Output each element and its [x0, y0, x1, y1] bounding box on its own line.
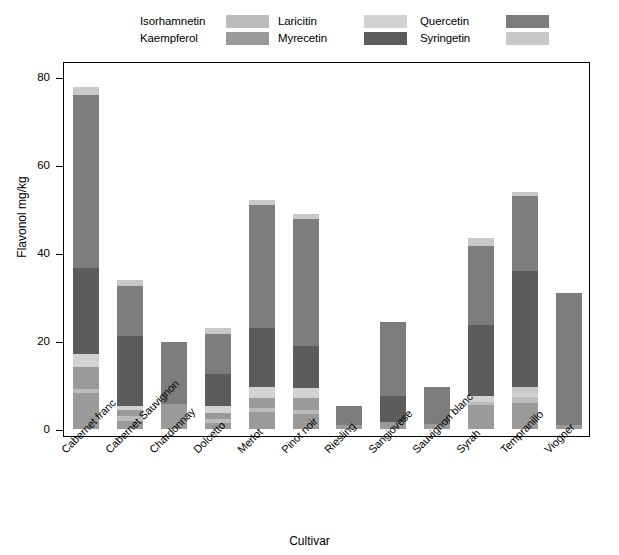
bar-segment-laricitin: [205, 406, 231, 413]
bar-pinot-noir[interactable]: [293, 214, 319, 429]
legend-swatch: [506, 15, 549, 28]
bar-segment-quercetin: [556, 293, 582, 425]
y-tick-mark: [56, 430, 63, 431]
legend-swatch: [506, 32, 549, 45]
bar-segment-myrecetin: [512, 271, 538, 387]
bar-merlot[interactable]: [249, 200, 275, 429]
legend-item-myrecetin[interactable]: Myrecetin: [278, 31, 407, 46]
bar-segment-kaempferol2: [73, 367, 99, 389]
legend-swatch: [364, 15, 407, 28]
bar-segment-laricitin: [512, 393, 538, 397]
bar-segment-syringetin: [205, 328, 231, 334]
x-axis-label: Cultivar: [0, 534, 619, 548]
bar-segment-laricitin: [73, 354, 99, 366]
y-tick-label: 0: [6, 423, 50, 435]
y-tick-label: 20: [6, 335, 50, 347]
bar-segment-syringetin: [293, 214, 319, 219]
legend-column-1: LaricitinMyrecetin: [278, 14, 407, 48]
y-tick-mark: [56, 78, 63, 79]
legend-item-laricitin[interactable]: Laricitin: [278, 14, 407, 29]
bar-segment-laricitin: [249, 387, 275, 398]
bar-segment-kaempferol2: [293, 398, 319, 409]
legend-label: Isorhamnetin: [140, 15, 226, 28]
bar-segment-syringetin: [468, 238, 494, 246]
chart-legend: IsorhamnetinKaempferolLaricitinMyrecetin…: [0, 0, 619, 56]
bar-dolcetto[interactable]: [205, 328, 231, 429]
y-axis-spine: [63, 78, 64, 430]
bar-tempranillo[interactable]: [512, 192, 538, 429]
bar-segment-kaempferol: [249, 412, 275, 429]
bar-segment-quercetin: [73, 95, 99, 269]
plot-area: [63, 62, 590, 437]
legend-label: Quercetin: [420, 15, 506, 28]
legend-swatch: [226, 32, 269, 45]
legend-label: Kaempferol: [140, 32, 226, 45]
bar-segment-syringetin2: [512, 192, 538, 196]
bar-segment-myrecetin: [73, 268, 99, 354]
bar-cabernet-sauvignon[interactable]: [117, 280, 143, 429]
bar-segment-quercetin: [249, 205, 275, 328]
y-tick-label: 80: [6, 71, 50, 83]
y-axis-label: Flavonol mg/kg: [15, 137, 29, 297]
bar-segment-isorhamnetin: [73, 389, 99, 393]
legend-label: Laricitin: [278, 15, 364, 28]
y-tick-mark: [56, 166, 63, 167]
bar-segment-kaempferol: [468, 405, 494, 429]
bar-segment-isorhamnetin: [293, 410, 319, 414]
bar-segment-kaempferol2: [249, 398, 275, 408]
bar-segment-quercetin: [205, 334, 231, 375]
bar-segment-isorhamnetin: [468, 402, 494, 406]
legend-item-isorhamnetin[interactable]: Isorhamnetin: [140, 14, 269, 29]
bar-segment-quercetin: [293, 219, 319, 346]
bar-segment-syringetin: [249, 200, 275, 204]
legend-item-quercetin[interactable]: Quercetin: [420, 14, 549, 29]
bar-segment-syringetin: [512, 387, 538, 393]
legend-item-syringetin[interactable]: Syringetin: [420, 31, 549, 46]
bar-segment-laricitin: [293, 388, 319, 398]
bar-segment-myrecetin: [205, 374, 231, 406]
y-tick-mark: [56, 342, 63, 343]
bar-cabernet-franc[interactable]: [73, 87, 99, 429]
bar-segment-myrecetin: [117, 336, 143, 406]
bar-segment-quercetin: [468, 246, 494, 325]
bar-segment-isorhamnetin: [512, 397, 538, 402]
legend-label: Syringetin: [420, 32, 506, 45]
legend-column-2: QuercetinSyringetin: [420, 14, 549, 48]
bar-segment-syringetin: [73, 87, 99, 95]
legend-swatch: [226, 15, 269, 28]
legend-item-kaempferol[interactable]: Kaempferol: [140, 31, 269, 46]
legend-swatch: [364, 32, 407, 45]
bar-viogner[interactable]: [556, 293, 582, 429]
legend-label: Myrecetin: [278, 32, 364, 45]
bar-segment-myrecetin: [293, 346, 319, 388]
y-tick-mark: [56, 254, 63, 255]
plot-inner: [64, 63, 589, 436]
legend-column-0: IsorhamnetinKaempferol: [140, 14, 269, 48]
bar-segment-quercetin: [512, 196, 538, 271]
bar-segment-myrecetin: [249, 328, 275, 387]
bar-segment-quercetin: [380, 322, 406, 396]
bar-segment-isorhamnetin: [249, 408, 275, 412]
bar-segment-myrecetin: [468, 325, 494, 397]
bar-segment-syringetin: [117, 280, 143, 286]
bar-segment-quercetin: [117, 286, 143, 336]
